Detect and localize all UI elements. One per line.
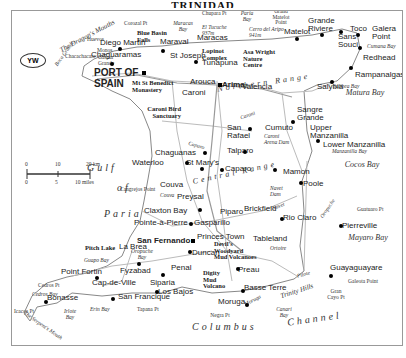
- feature-oropuche-bay: Oropuche Bay: [130, 249, 154, 260]
- mayaro-bay-label: Mayaro Bay: [348, 234, 388, 242]
- feature-salibea-bay: Salibea Bay: [333, 84, 359, 90]
- town-pointe-a-pierre: Pointe-à-Pierre: [134, 219, 188, 227]
- feature-monos: Monos: [97, 48, 112, 54]
- town-grande-riviere: Grande Riviere: [308, 17, 338, 33]
- feature-galeota-point: Galeota Point: [348, 279, 378, 285]
- town-upper-manzanilla: Upper Manzanilla: [310, 124, 348, 140]
- map-title: TRINIDAD: [0, 0, 406, 8]
- town-icacos-pt: Icacos Pt: [14, 309, 34, 315]
- poi-asa-wright-nature-centre: Asa Wright Nature Centre: [243, 49, 279, 69]
- marker-sans-souci: [339, 30, 343, 34]
- feature-canari-bay: Canari Bay: [274, 307, 294, 318]
- poi-mt-st-benedict: Mt St Benedict Monastery: [132, 80, 180, 93]
- marker-waterloo: [185, 161, 189, 165]
- marker-rio-claro: [280, 217, 284, 221]
- feature-guatuaro-pt: Guatuaro Pt: [357, 207, 383, 213]
- feature-corozal-pt: Corozal Pt: [124, 21, 147, 27]
- marker-mamon: [273, 168, 277, 172]
- marker-grande-riviere: [320, 33, 324, 37]
- marker-lower-manzanilla: [316, 139, 320, 143]
- town-guayaguayare: Guayaguayare: [330, 264, 382, 272]
- marker-chaguaramas: [110, 62, 114, 66]
- marker-maraval: [161, 49, 165, 53]
- marker-duncan: [188, 250, 192, 254]
- feature-cangrejos-point: Cangrejos Point: [120, 187, 155, 193]
- marker-guayaguayare: [329, 274, 333, 278]
- feature-gran-cayo-pt: Gran Cayo Pt: [325, 289, 347, 300]
- feature-grand-matelot-point: Grand Matelot Point: [268, 10, 294, 26]
- town-talparo: Talparo: [227, 147, 253, 155]
- town-rio-claro: Rio Claro: [283, 214, 316, 222]
- marker-rampanalgas: [349, 66, 353, 70]
- town-rampanalgas: Rampanalgas: [355, 71, 403, 79]
- town-poole: Poole: [303, 180, 323, 188]
- sea-gulf: Gulf: [87, 163, 117, 173]
- poi-caroni-bird-sanctuary: Caroni Bird Sanctuary: [137, 106, 181, 119]
- feature-negra-pt: Negra Pt: [210, 313, 230, 319]
- marker-los-bajos: [155, 290, 159, 294]
- feature-couva-river: Couva: [160, 193, 174, 199]
- marker-toco: [356, 33, 360, 37]
- town-galera-point: Galera Point: [372, 25, 402, 41]
- feature-irlote-bay: Irlote Bay: [60, 309, 80, 320]
- poi-devils-woodyard: Devil's Woodyard Mud Volcanoes: [214, 241, 258, 261]
- town-moruga: Moruga: [218, 298, 245, 306]
- town-valencia: Valencia: [242, 83, 272, 91]
- marker-tunapuna: [194, 60, 198, 64]
- town-mamon: Mamon: [283, 168, 310, 176]
- marker-sangre-grande: [291, 120, 295, 124]
- marker-cap-de-ville: [95, 276, 99, 280]
- marker-pierreville: [339, 224, 343, 228]
- town-waterloo: Waterloo: [132, 159, 164, 167]
- marker-matelot: [295, 37, 299, 41]
- marker-st-marys: [200, 167, 204, 171]
- town-tableland: Tableland: [253, 235, 287, 243]
- san-fernando-marker: [191, 239, 195, 243]
- town-preysal: Preysal: [177, 193, 204, 201]
- town-st-marys: St Mary's: [186, 159, 219, 167]
- scale-km-0: 0: [25, 162, 28, 168]
- town-penal: Penal: [171, 264, 191, 272]
- country-code-badge: YW: [20, 53, 46, 68]
- scale-mi-5: 5: [55, 180, 58, 186]
- poi-blue-basin-falls: Blue Basin Falls: [137, 30, 167, 43]
- town-sangre-grande: Sangre Grande: [297, 106, 331, 122]
- town-los-bajos: Los Bajos: [158, 288, 193, 296]
- feature-cedros-bay: Cedros Bay: [32, 292, 58, 298]
- town-preau: Preau: [238, 266, 259, 274]
- feature-navet-dam: Navet Dam: [270, 186, 290, 197]
- arima-marker: [218, 83, 222, 87]
- feature-maracas-bay: Maracas Bay: [172, 21, 194, 32]
- marker-san-rafael: [248, 127, 252, 131]
- feature-manzanilla-bay: Manzanilla Bay: [332, 149, 367, 155]
- marker-gasparillo: [189, 222, 193, 226]
- feature-caroni-arena-dam: Caroni Arena Dam: [264, 134, 290, 145]
- town-chaguanas: Chaguanas: [155, 149, 196, 157]
- town-st-joseph: St Joseph: [170, 52, 206, 60]
- marker-moruga: [245, 303, 249, 307]
- marker-siparia: [161, 273, 165, 277]
- scale-km-10: 10: [55, 162, 61, 168]
- scale-mi-0: 0: [25, 180, 28, 186]
- marker-basse-terre: [241, 289, 245, 293]
- feature-cedros-pt: Cedros Pt: [38, 283, 60, 289]
- feature-chupara-pt: Chupara Pt: [202, 11, 227, 17]
- town-cap-de-ville: Cap-de-Ville: [92, 279, 136, 287]
- marker-poole: [299, 181, 303, 185]
- feature-tapana-pt: Tapana Pt: [137, 307, 159, 313]
- scale-mi-10: 10 miles: [75, 180, 94, 186]
- town-siparia: Siparia: [150, 279, 175, 287]
- feature-gaspar-grande: Gaspar Grande: [98, 55, 118, 66]
- town-piparo: Piparo: [220, 208, 243, 216]
- feature-cumana-bay: Cumana Bay: [367, 44, 396, 50]
- town-gasparillo: Gasparillo: [194, 219, 230, 227]
- marker-salybia: [330, 80, 334, 84]
- town-point-fortin: Point Fortin: [61, 268, 102, 276]
- map-frame: 0 10 20 km 0 5 10 miles YW Gulf of Paria…: [11, 10, 403, 346]
- poi-lopinot-complex: Lopinot Complex: [202, 48, 234, 61]
- sea-columbus: Columbus: [192, 322, 257, 332]
- feature-ortoire: Ortoire: [270, 246, 286, 252]
- marker-diego-martin: [118, 47, 122, 51]
- marker-preau: [236, 267, 240, 271]
- capital-marker: [142, 71, 146, 75]
